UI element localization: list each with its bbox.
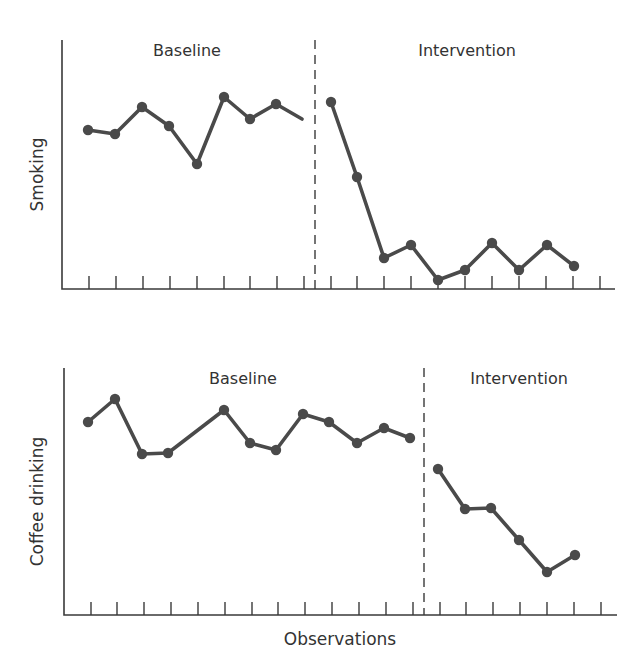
x-axis-label: Observations <box>284 629 397 649</box>
series-line <box>88 97 302 164</box>
data-point <box>352 438 362 448</box>
data-point <box>486 503 496 513</box>
y-axis-label: Coffee drinking <box>27 437 47 567</box>
y-axis-label: Smoking <box>27 138 47 212</box>
phase-label: Baseline <box>209 369 277 388</box>
data-point <box>83 125 93 135</box>
phase-label: Intervention <box>470 369 568 388</box>
panel-coffee-drinking: Coffee drinkingBaselineIntervention <box>27 368 617 615</box>
data-point <box>245 114 255 124</box>
data-point <box>569 261 579 271</box>
data-point <box>570 550 580 560</box>
data-point <box>271 99 281 109</box>
data-point <box>326 97 336 107</box>
data-point <box>298 409 308 419</box>
phase-label: Baseline <box>153 41 221 60</box>
data-point <box>460 504 470 514</box>
data-point <box>271 445 281 455</box>
data-point <box>433 464 443 474</box>
series-line <box>438 469 575 572</box>
data-point <box>110 394 120 404</box>
data-point <box>406 240 416 250</box>
data-point <box>192 159 202 169</box>
data-point <box>352 172 362 182</box>
data-point <box>324 417 334 427</box>
data-point <box>460 265 470 275</box>
series-line <box>331 102 574 280</box>
data-point <box>514 535 524 545</box>
data-point <box>163 448 173 458</box>
data-point <box>487 238 497 248</box>
data-point <box>245 438 255 448</box>
axes <box>62 40 615 289</box>
chart-root: SmokingBaselineIntervention Coffee drink… <box>0 0 644 670</box>
data-point <box>433 275 443 285</box>
data-point <box>83 417 93 427</box>
data-point <box>542 567 552 577</box>
figure: SmokingBaselineIntervention Coffee drink… <box>0 0 644 670</box>
data-point <box>137 102 147 112</box>
data-point <box>379 423 389 433</box>
data-point <box>137 449 147 459</box>
data-point <box>164 121 174 131</box>
data-point <box>514 265 524 275</box>
axes <box>64 368 617 615</box>
data-point <box>219 405 229 415</box>
data-point <box>405 433 415 443</box>
data-point <box>379 253 389 263</box>
data-point <box>542 240 552 250</box>
data-point <box>219 92 229 102</box>
panel-smoking: SmokingBaselineIntervention <box>27 40 615 289</box>
phase-label: Intervention <box>418 41 516 60</box>
data-point <box>110 129 120 139</box>
